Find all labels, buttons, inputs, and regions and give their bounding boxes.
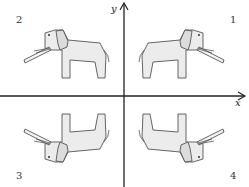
x-axis-label: x [235, 97, 241, 108]
quadrant-label-4: 4 [230, 170, 236, 181]
elephant-quadrant-1 [139, 30, 224, 78]
quadrant-label-1: 1 [230, 14, 236, 25]
elephant-quadrant-2 [24, 30, 109, 78]
quadrant-label-2: 2 [16, 14, 22, 25]
axes: x y [0, 3, 245, 187]
y-axis-label: y [110, 3, 117, 14]
elephant-quadrant-4 [139, 114, 224, 162]
quadrant-label-3: 3 [16, 170, 22, 181]
elephant-quadrant-3 [24, 114, 109, 162]
coordinate-plane-figure: x y 1 2 3 4 [0, 0, 249, 187]
